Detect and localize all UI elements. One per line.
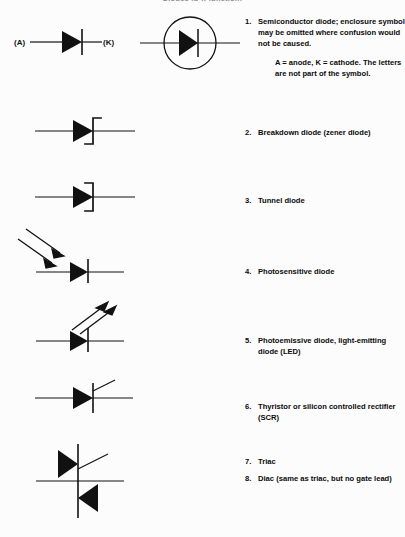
item-4-text: Photosensitive diode — [258, 267, 405, 278]
item-6-text: Thyristor or silicon controlled rectifie… — [258, 402, 405, 424]
tunnel-diode-symbol — [35, 178, 135, 216]
led-symbol — [16, 296, 146, 352]
item-5-number: 5. — [245, 336, 258, 347]
zener-diode-symbol — [35, 112, 135, 150]
item-7-text: Triac — [258, 457, 405, 468]
item-3-text: Tunnel diode — [258, 196, 405, 207]
scr-symbol — [35, 372, 145, 418]
item-8-number: 8. — [245, 474, 258, 485]
diode-symbol — [30, 26, 102, 58]
item-7: 7. Triac — [245, 457, 405, 468]
item-2: 2. Breakdown diode (zener diode) — [245, 128, 405, 139]
item-5: 5. Photoemissive diode, light-emitting d… — [245, 336, 405, 358]
anode-label: (A) — [14, 38, 25, 47]
item-4: 4. Photosensitive diode — [245, 267, 405, 278]
item-1: 1. Semiconductor diode; enclosure symbol… — [245, 17, 405, 80]
item-5-text: Photoemissive diode, light-emitting diod… — [258, 336, 405, 358]
cathode-label: (K) — [103, 38, 114, 47]
enclosed-diode-symbol — [140, 12, 240, 74]
diode-symbols-figure: Diodes (p-n-junction) (A) (K) — [0, 0, 405, 537]
page-heading: Diodes (p-n-junction) — [0, 0, 405, 1]
item-2-number: 2. — [245, 128, 258, 139]
item-6-number: 6. — [245, 402, 258, 413]
item-3: 3. Tunnel diode — [245, 196, 405, 207]
item-1-subtext: A = anode, K = cathode. The letters are … — [258, 58, 405, 80]
item-4-number: 4. — [245, 267, 258, 278]
item-6: 6. Thyristor or silicon controlled recti… — [245, 402, 405, 424]
item-8: 8. Diac (same as triac, but no gate lead… — [245, 474, 405, 485]
item-7-number: 7. — [245, 457, 258, 468]
item-3-number: 3. — [245, 196, 258, 207]
item-8-text: Diac (same as triac, but no gate lead) — [258, 474, 405, 485]
photosensitive-diode-symbol — [16, 227, 136, 283]
item-1-text: Semiconductor diode; enclosure symbol ma… — [258, 17, 405, 49]
item-2-text: Breakdown diode (zener diode) — [258, 128, 405, 139]
triac-symbol — [28, 438, 158, 524]
item-1-number: 1. — [245, 17, 258, 28]
